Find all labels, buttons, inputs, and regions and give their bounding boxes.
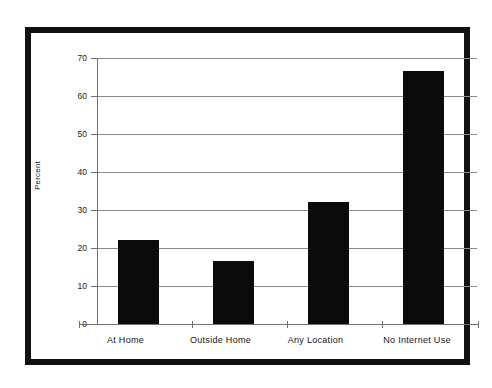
x-axis-line (79, 324, 479, 325)
figure-frame: Percent 70 60 50 40 30 20 10 (25, 27, 470, 365)
x-tick-mark-start (79, 321, 80, 328)
x-tick-mark-2 (287, 321, 288, 328)
x-tick-mark-end (478, 321, 479, 328)
gridline-70 (97, 58, 477, 59)
y-tick-label-10: 10 (61, 282, 87, 291)
x-tick-mark-1 (192, 321, 193, 328)
y-tick-label-40: 40 (61, 168, 87, 177)
chart-screenshot: Percent 70 60 50 40 30 20 10 (0, 0, 492, 388)
x-category-label-any-location: Any Location (268, 335, 363, 345)
bar-outside-home (213, 261, 254, 324)
x-tick-mark-3 (382, 321, 383, 328)
chart-plot-region: Percent 70 60 50 40 30 20 10 (31, 33, 476, 371)
y-tick-label-70: 70 (61, 54, 87, 63)
y-tick-label-20: 20 (61, 244, 87, 253)
bar-any-location (308, 202, 349, 324)
y-tick-label-60: 60 (61, 92, 87, 101)
x-category-label-at-home: At Home (78, 335, 173, 345)
y-axis-line (97, 58, 98, 325)
plot-inner (97, 58, 477, 324)
y-axis-title: Percent (33, 161, 42, 190)
y-tick-label-50: 50 (61, 130, 87, 139)
x-category-label-no-internet-use: No Internet Use (363, 335, 471, 345)
bar-no-internet-use (403, 71, 444, 324)
y-tick-label-30: 30 (61, 206, 87, 215)
bar-at-home (118, 240, 159, 324)
x-category-label-outside-home: Outside Home (173, 335, 268, 345)
